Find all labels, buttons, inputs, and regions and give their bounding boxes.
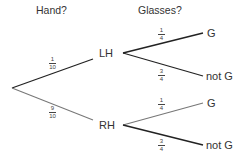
node-rh-g: G bbox=[207, 97, 216, 109]
prob-lh-num: 1 bbox=[51, 56, 54, 62]
prob-rh-not-g-num: 3 bbox=[160, 138, 163, 144]
header-hand: Hand? bbox=[36, 4, 67, 16]
prob-lh-not-g: 3 4 bbox=[158, 68, 165, 82]
prob-lh-den: 10 bbox=[49, 64, 56, 70]
prob-lh: 1 10 bbox=[49, 56, 56, 70]
header-glasses: Glasses? bbox=[138, 4, 182, 16]
prob-lh-g-den: 4 bbox=[160, 35, 163, 41]
prob-rh: 9 10 bbox=[49, 105, 56, 119]
prob-lh-g-num: 1 bbox=[160, 27, 163, 33]
node-lh-not-g: not G bbox=[206, 70, 233, 82]
prob-lh-g: 1 4 bbox=[158, 27, 165, 41]
prob-rh-g: 1 4 bbox=[158, 97, 165, 111]
node-lh: LH bbox=[99, 47, 113, 59]
node-rh: RH bbox=[99, 119, 115, 131]
prob-rh-num: 9 bbox=[51, 105, 54, 111]
prob-rh-den: 10 bbox=[49, 113, 56, 119]
node-lh-g: G bbox=[207, 27, 216, 39]
node-rh-not-g: not G bbox=[206, 139, 233, 151]
prob-rh-not-g-den: 4 bbox=[160, 146, 163, 152]
prob-rh-not-g: 3 4 bbox=[158, 138, 165, 152]
prob-rh-g-num: 1 bbox=[160, 97, 163, 103]
prob-rh-g-den: 4 bbox=[160, 105, 163, 111]
prob-lh-not-g-den: 4 bbox=[160, 76, 163, 82]
prob-lh-not-g-num: 3 bbox=[160, 68, 163, 74]
